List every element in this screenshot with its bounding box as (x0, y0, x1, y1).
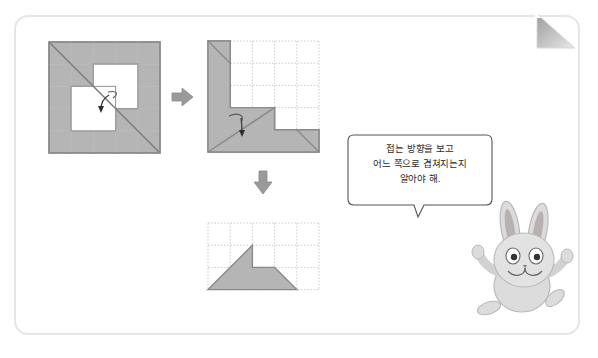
right-arrow-icon (171, 86, 195, 108)
page-root: 접는 방향을 보고 어느 쪽으로 겹쳐지는지 알아야 해. (0, 0, 598, 358)
speech-bubble-line-1: 접는 방향을 보고 (352, 141, 488, 156)
speech-bubble-text: 접는 방향을 보고 어느 쪽으로 겹쳐지는지 알아야 해. (352, 141, 488, 186)
figure-3-folded-paper-step-3 (203, 218, 323, 308)
figure-2-folded-paper-step-2 (203, 36, 323, 160)
rabbit-left-foot (476, 299, 503, 318)
page-corner-fold-icon (533, 10, 583, 58)
down-arrow-icon (252, 170, 274, 196)
rabbit-head (494, 233, 554, 287)
figure-1-folded-paper-step-1 (44, 37, 164, 161)
rabbit-character (462, 198, 580, 320)
speech-bubble-line-3: 알아야 해. (352, 171, 488, 186)
rabbit-left-hand (472, 245, 484, 259)
rabbit-right-hand (561, 249, 573, 263)
speech-bubble-line-2: 어느 쪽으로 겹쳐지는지 (352, 156, 488, 171)
